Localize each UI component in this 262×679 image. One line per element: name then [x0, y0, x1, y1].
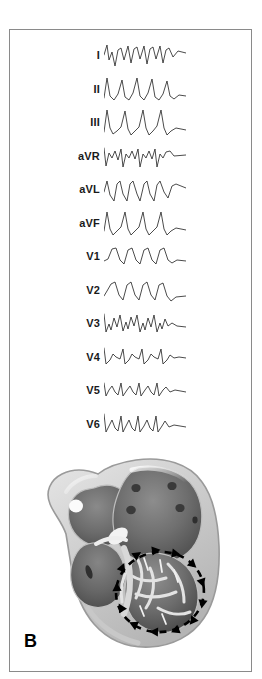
ecg-lead-label: III — [10, 105, 103, 139]
ecg-lead-trace — [104, 206, 186, 240]
ecg-lead-trace — [104, 72, 186, 106]
ecg-lead-row: aVR — [10, 139, 251, 173]
ecg-lead-trace — [104, 139, 186, 173]
ecg-lead-row: V4 — [10, 340, 251, 374]
ecg-lead-label: V5 — [10, 373, 103, 407]
ecg-lead-row: aVF — [10, 206, 251, 240]
panel-label: B — [24, 631, 37, 652]
pulmonary-vein-orifice — [126, 506, 136, 514]
ecg-lead-trace — [104, 340, 186, 374]
pulmonary-vein-orifice — [167, 482, 176, 490]
ecg-lead-trace — [104, 38, 186, 72]
figure-panel: IIIIIIaVRaVLaVFV1V2V3V4V5V6 — [9, 29, 252, 672]
ecg-lead-row: V1 — [10, 239, 251, 273]
ecg-lead-row: V6 — [10, 407, 251, 441]
ecg-lead-trace — [104, 239, 186, 273]
valve-orifice-highlight — [69, 500, 83, 513]
ecg-lead-row: II — [10, 72, 251, 106]
ecg-lead-trace — [104, 373, 186, 407]
ecg-lead-row: V5 — [10, 373, 251, 407]
ecg-lead-label: V4 — [10, 340, 103, 374]
ecg-lead-row: V2 — [10, 273, 251, 307]
ecg-lead-label: aVF — [10, 206, 103, 240]
ecg-lead-row: III — [10, 105, 251, 139]
ecg-twelve-lead-strip: IIIIIIaVRaVLaVFV1V2V3V4V5V6 — [10, 30, 251, 450]
ecg-lead-label: aVR — [10, 139, 103, 173]
ecg-lead-trace — [104, 306, 186, 340]
heart-cross-section-illustration — [32, 448, 232, 653]
ecg-lead-row: I — [10, 38, 251, 72]
pulmonary-vein-orifice — [192, 517, 197, 524]
ecg-lead-row: aVL — [10, 172, 251, 206]
ecg-lead-label: V1 — [10, 239, 103, 273]
ecg-lead-label: I — [10, 38, 103, 72]
pulmonary-vein-orifice — [175, 504, 184, 512]
ecg-lead-trace — [104, 273, 186, 307]
ecg-lead-trace — [104, 172, 186, 206]
ecg-lead-trace — [104, 105, 186, 139]
ecg-lead-trace — [104, 407, 186, 441]
ecg-lead-row: V3 — [10, 306, 251, 340]
ecg-lead-label: V3 — [10, 306, 103, 340]
pulmonary-vein-orifice — [131, 484, 140, 492]
ecg-lead-label: aVL — [10, 172, 103, 206]
ecg-lead-label: V2 — [10, 273, 103, 307]
ecg-lead-label: V6 — [10, 407, 103, 441]
ecg-lead-label: II — [10, 72, 103, 106]
